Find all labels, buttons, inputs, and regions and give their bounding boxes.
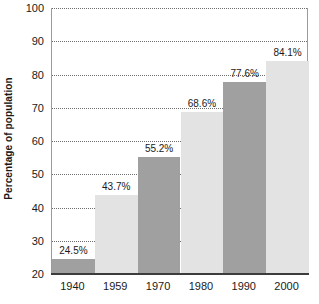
y-tick-label: 90 <box>32 35 44 47</box>
y-tick-label: 100 <box>26 2 44 14</box>
y-tick-label: 20 <box>32 268 44 280</box>
bar-value-label: 55.2% <box>145 143 173 154</box>
x-tick-label: 1980 <box>189 280 213 292</box>
y-axis-title-text: Percentage of population <box>3 77 14 199</box>
x-axis-tick-labels: 194019591970198019902000 <box>51 278 308 300</box>
bar-2000: 84.1% <box>266 61 309 274</box>
y-tick-label: 60 <box>32 135 44 147</box>
bar-value-label: 68.6% <box>188 98 216 109</box>
x-tick-label: 1959 <box>103 280 127 292</box>
y-tick-label: 70 <box>32 102 44 114</box>
y-tick-label: 50 <box>32 168 44 180</box>
bar-chart: Percentage of population 203040506070809… <box>0 0 319 304</box>
bar-1980: 68.6% <box>181 112 224 274</box>
bar-value-label: 43.7% <box>102 181 130 192</box>
x-tick-label: 1990 <box>232 280 256 292</box>
plot-area: 24.5%43.7%55.2%68.6%77.6%84.1% <box>51 8 308 274</box>
x-tick-label: 1970 <box>146 280 170 292</box>
y-tick-label: 80 <box>32 69 44 81</box>
bar-1990: 77.6% <box>223 82 266 274</box>
bar-value-label: 24.5% <box>59 245 87 256</box>
y-tick-label: 30 <box>32 235 44 247</box>
bar-1970: 55.2% <box>138 157 181 274</box>
x-tick-label: 2000 <box>274 280 298 292</box>
bar-value-label: 84.1% <box>273 47 301 58</box>
bar-1959: 43.7% <box>95 195 138 274</box>
bar-value-label: 77.6% <box>231 68 259 79</box>
bar-series: 24.5%43.7%55.2%68.6%77.6%84.1% <box>52 8 307 274</box>
bar-1940: 24.5% <box>52 259 95 274</box>
y-axis-title: Percentage of population <box>0 0 16 276</box>
y-tick-label: 40 <box>32 202 44 214</box>
x-tick-label: 1940 <box>60 280 84 292</box>
y-axis-tick-labels: 2030405060708090100 <box>16 0 48 276</box>
x-axis-line <box>51 273 309 275</box>
